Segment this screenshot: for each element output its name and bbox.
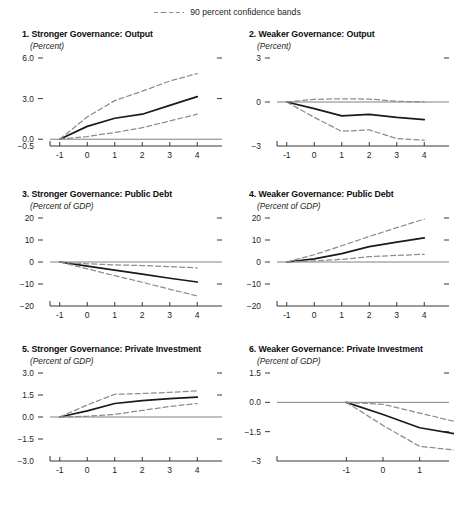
- x-tick-label: 0: [381, 465, 386, 475]
- plot-area: 20100−10−20-101234: [227, 212, 454, 332]
- plot-area: 1.50.0−1.5−3-101234: [227, 367, 454, 487]
- panel-title: 6. Weaker Governance: Private Investment: [249, 344, 423, 354]
- y-tick-label: 0.0: [22, 412, 34, 422]
- legend-label: 90 percent confidence bands: [190, 7, 300, 17]
- panel-subtitle: (Percent of GDP): [257, 356, 321, 366]
- panel-subtitle: (Percent of GDP): [30, 201, 94, 211]
- central-estimate-line: [60, 397, 198, 417]
- y-tick-label: 3: [256, 53, 261, 63]
- x-tick-label: 2: [367, 150, 372, 160]
- chart-panel-1: 1. Stronger Governance: Output(Percent)6…: [0, 26, 227, 186]
- chart-panel-2: 2. Weaker Governance: Output(Percent)30−…: [227, 26, 455, 186]
- y-tick-label: −0.5: [17, 141, 34, 151]
- central-estimate-line: [287, 102, 425, 120]
- x-tick-label: -1: [343, 465, 351, 475]
- plot-area: 30−3-101234: [227, 52, 454, 172]
- central-estimate-line: [346, 402, 454, 440]
- x-tick-label: 0: [85, 150, 90, 160]
- y-tick-label: −3: [251, 456, 261, 466]
- x-tick-label: 0: [85, 465, 90, 475]
- x-tick-label: 4: [195, 150, 200, 160]
- x-tick-label: -1: [283, 150, 291, 160]
- figure-panel-grid: 90 percent confidence bands 1. Stronger …: [0, 0, 455, 511]
- y-tick-label: 10: [25, 235, 35, 245]
- confidence-band-line: [287, 254, 425, 262]
- y-tick-label: −10: [20, 279, 35, 289]
- x-tick-label: 4: [195, 465, 200, 475]
- x-tick-label: 0: [312, 310, 317, 320]
- y-tick-label: 0: [256, 97, 261, 107]
- central-estimate-line: [60, 97, 198, 140]
- y-tick-label: −1.5: [244, 427, 261, 437]
- x-tick-label: -1: [56, 465, 64, 475]
- x-tick-label: 1: [339, 310, 344, 320]
- x-tick-label: 3: [167, 465, 172, 475]
- y-tick-label: −3.0: [17, 456, 34, 466]
- y-tick-label: 0: [29, 257, 34, 267]
- y-tick-label: 1.5: [22, 390, 34, 400]
- y-tick-label: −1.5: [17, 434, 34, 444]
- x-tick-label: 2: [140, 150, 145, 160]
- x-tick-label: 1: [417, 465, 422, 475]
- confidence-band-line: [60, 404, 198, 417]
- x-tick-label: 1: [112, 465, 117, 475]
- y-tick-label: 10: [252, 235, 262, 245]
- plot-area: 3.01.50.0−1.5−3.0-101234: [0, 367, 227, 487]
- y-tick-label: 1.5: [249, 368, 261, 378]
- x-tick-label: 4: [422, 150, 427, 160]
- chart-panel-5: 5. Stronger Governance: Private Investme…: [0, 341, 227, 511]
- x-tick-label: 0: [312, 150, 317, 160]
- y-tick-label: 0: [256, 257, 261, 267]
- panel-title: 2. Weaker Governance: Output: [249, 29, 375, 39]
- y-tick-label: −3: [251, 141, 261, 151]
- y-tick-label: 3.0: [22, 94, 34, 104]
- x-tick-label: 3: [167, 310, 172, 320]
- x-tick-label: -1: [56, 150, 64, 160]
- confidence-band-line: [60, 114, 198, 139]
- panel-title: 3. Stronger Governance: Public Debt: [22, 189, 172, 199]
- x-tick-label: -1: [56, 310, 64, 320]
- y-tick-label: 6.0: [22, 53, 34, 63]
- x-tick-label: 4: [422, 310, 427, 320]
- chart-panel-4: 4. Weaker Governance: Public Debt(Percen…: [227, 186, 455, 341]
- x-tick-label: 2: [367, 310, 372, 320]
- chart-panel-6: 6. Weaker Governance: Private Investment…: [227, 341, 455, 511]
- y-tick-label: −10: [247, 279, 262, 289]
- x-tick-label: -1: [283, 310, 291, 320]
- x-tick-label: 1: [112, 310, 117, 320]
- confidence-band-line: [346, 402, 454, 430]
- panel-subtitle: (Percent of GDP): [257, 201, 321, 211]
- x-tick-label: 1: [112, 150, 117, 160]
- panel-subtitle: (Percent): [257, 41, 291, 51]
- x-tick-label: 3: [167, 150, 172, 160]
- panel-title: 4. Weaker Governance: Public Debt: [249, 189, 394, 199]
- panel-title: 5. Stronger Governance: Private Investme…: [22, 344, 201, 354]
- plot-area: 6.03.00.0−0.5-101234: [0, 52, 227, 172]
- panels-container: 1. Stronger Governance: Output(Percent)6…: [0, 26, 455, 511]
- chart-panel-3: 3. Stronger Governance: Public Debt(Perc…: [0, 186, 227, 341]
- x-tick-label: 3: [394, 310, 399, 320]
- plot-area: 20100−10−20-101234: [0, 212, 227, 332]
- x-tick-label: 1: [339, 150, 344, 160]
- y-tick-label: −20: [20, 301, 35, 311]
- chart-legend: 90 percent confidence bands: [0, 7, 455, 17]
- panel-title: 1. Stronger Governance: Output: [22, 29, 153, 39]
- x-tick-label: 0: [85, 310, 90, 320]
- y-tick-label: 20: [25, 213, 35, 223]
- x-tick-label: 4: [195, 310, 200, 320]
- panel-subtitle: (Percent): [30, 41, 64, 51]
- x-tick-label: 2: [140, 310, 145, 320]
- y-tick-label: 3.0: [22, 368, 34, 378]
- y-tick-label: 0.0: [249, 397, 261, 407]
- x-tick-label: 2: [140, 465, 145, 475]
- y-tick-label: 20: [252, 213, 262, 223]
- y-tick-label: −20: [247, 301, 262, 311]
- panel-subtitle: (Percent of GDP): [30, 356, 94, 366]
- x-tick-label: 3: [394, 150, 399, 160]
- dashed-line-icon: [154, 9, 184, 16]
